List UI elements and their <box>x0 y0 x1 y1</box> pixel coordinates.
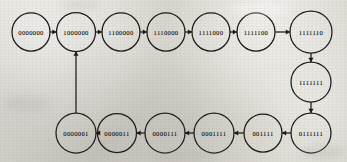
state-node-label: 1111110 <box>299 29 323 36</box>
arrow-head-icon <box>52 29 56 34</box>
state-node-label: 1111111 <box>299 79 323 86</box>
arrow-head-icon <box>143 29 147 34</box>
state-node-label: 0111111 <box>299 130 323 137</box>
state-node-label: 0000001 <box>63 130 89 137</box>
state-node-label: 0000011 <box>104 130 129 137</box>
arrow-head-icon <box>234 130 238 135</box>
arrow-head-icon <box>98 29 102 34</box>
state-node-label: 001111 <box>252 130 273 137</box>
state-node-label: 0000111 <box>152 130 177 137</box>
arrow-head-icon <box>233 29 237 34</box>
arrow-head-icon <box>286 29 290 34</box>
state-node-label: 0000000 <box>18 29 44 36</box>
state-node-label: 1110000 <box>153 29 178 36</box>
diagram-svg <box>0 0 347 162</box>
state-node-label: 1100000 <box>108 29 133 36</box>
arrow-head-icon <box>282 130 286 135</box>
state-node-label: 0001111 <box>202 130 227 137</box>
arrow-head-icon <box>308 58 313 62</box>
arrow-head-icon <box>185 130 189 135</box>
arrow-head-icon <box>73 52 78 56</box>
arrow-head-icon <box>137 130 141 135</box>
arrow-head-icon <box>188 29 192 34</box>
state-node-label: 1111100 <box>244 29 269 36</box>
state-node-label: 1000000 <box>63 29 89 36</box>
arrow-head-icon <box>308 109 313 113</box>
diagram-canvas: 0000000100000011000001110000111100011111… <box>0 0 347 162</box>
state-node-label: 1111000 <box>199 29 224 36</box>
